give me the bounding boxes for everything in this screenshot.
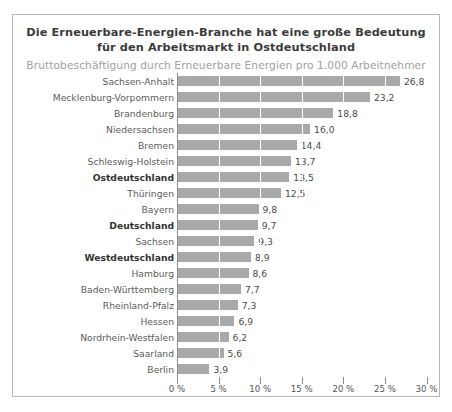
- bar: [177, 156, 291, 166]
- bar-row: Brandenburg18,8: [13, 105, 439, 121]
- bar-row: Bremen14,4: [13, 137, 439, 153]
- value-label: 7,3: [238, 300, 257, 311]
- bar-track: 7,3: [177, 297, 439, 313]
- axis-tick: [219, 377, 220, 384]
- bar: [177, 76, 400, 86]
- bar-row: Rheinland-Pfalz7,3: [13, 297, 439, 313]
- chart-subtitle: Bruttobeschäftigung durch Erneuerbare En…: [13, 58, 439, 73]
- value-label: 23,2: [370, 92, 394, 103]
- value-label: 8,6: [249, 268, 268, 279]
- bar: [177, 108, 333, 118]
- axis-tick-label: 5 %: [210, 384, 226, 394]
- axis-tick-label: 20 %: [332, 384, 354, 394]
- category-label: Niedersachsen: [106, 124, 174, 135]
- bar-track: 23,2: [177, 89, 439, 105]
- value-label: 3,9: [209, 364, 228, 375]
- value-label: 12,5: [281, 188, 305, 199]
- value-label: 9,7: [258, 220, 277, 231]
- bar-track: 14,4: [177, 137, 439, 153]
- value-label: 9,8: [259, 204, 278, 215]
- category-label: Rheinland-Pfalz: [103, 300, 174, 311]
- bar-track: 8,9: [177, 249, 439, 265]
- bar: [177, 236, 254, 246]
- bar-track: 8,6: [177, 265, 439, 281]
- axis-tick-label: 15 %: [291, 384, 313, 394]
- value-label: 8,9: [251, 252, 270, 263]
- bar: [177, 188, 281, 198]
- category-label: Berlin: [147, 364, 174, 375]
- bar-track: 13,7: [177, 153, 439, 169]
- bar-row: Deutschland9,7: [13, 217, 439, 233]
- bar-track: 12,5: [177, 185, 439, 201]
- bar-track: 6,2: [177, 329, 439, 345]
- x-axis-labels: 0 %5 %10 %15 %20 %25 %30 %: [177, 384, 439, 398]
- value-label: 16,0: [310, 124, 334, 135]
- value-label: 26,8: [400, 76, 424, 87]
- bar-row: Hamburg8,6: [13, 265, 439, 281]
- bar-track: 9,8: [177, 201, 439, 217]
- bar-track: 6,9: [177, 313, 439, 329]
- axis-tick: [260, 377, 261, 384]
- chart-title-line-2: für den Arbeitsmarkt in Ostdeutschland: [13, 40, 439, 55]
- bar-track: 3,9: [177, 361, 439, 377]
- bar-row: Saarland5,6: [13, 345, 439, 361]
- bar: [177, 204, 259, 214]
- bar: [177, 268, 249, 278]
- category-label: Schleswig-Holstein: [88, 156, 174, 167]
- bar-track: 26,8: [177, 73, 439, 89]
- axis-tick: [427, 377, 428, 384]
- axis-tick-label: 10 %: [249, 384, 271, 394]
- bar-row: Ostdeutschland13,5: [13, 169, 439, 185]
- category-label: Brandenburg: [114, 108, 174, 119]
- bar: [177, 332, 229, 342]
- value-label: 18,8: [333, 108, 357, 119]
- axis-tick: [177, 377, 178, 384]
- bar-row: Baden-Württemberg7,7: [13, 281, 439, 297]
- bar-track: 7,7: [177, 281, 439, 297]
- category-label: Ostdeutschland: [93, 172, 174, 183]
- axis-tick: [343, 377, 344, 384]
- bar: [177, 300, 238, 310]
- bar: [177, 348, 224, 358]
- bar-track: 9,7: [177, 217, 439, 233]
- value-label: 9,3: [254, 236, 273, 247]
- bar-track: 13,5: [177, 169, 439, 185]
- category-label: Hessen: [140, 316, 174, 327]
- bar-track: 5,6: [177, 345, 439, 361]
- chart-frame: Die Erneuerbare-Energien-Branche hat ein…: [12, 14, 440, 397]
- bar: [177, 316, 234, 326]
- bar-rows: Sachsen-Anhalt26,8Mecklenburg-Vorpommern…: [13, 73, 439, 377]
- bar: [177, 172, 289, 182]
- axis-tick-label: 30 %: [416, 384, 438, 394]
- bar-track: 16,0: [177, 121, 439, 137]
- bar-row: Sachsen9,3: [13, 233, 439, 249]
- value-label: 6,9: [234, 316, 253, 327]
- category-label: Bayern: [142, 204, 174, 215]
- bar-row: Nordrhein-Westfalen6,2: [13, 329, 439, 345]
- category-label: Hamburg: [131, 268, 174, 279]
- bar-track: 9,3: [177, 233, 439, 249]
- title-block: Die Erneuerbare-Energien-Branche hat ein…: [13, 15, 439, 73]
- value-label: 6,2: [229, 332, 248, 343]
- bar-row: Westdeutschland8,9: [13, 249, 439, 265]
- bar-row: Niedersachsen16,0: [13, 121, 439, 137]
- category-label: Bremen: [138, 140, 174, 151]
- category-label: Sachsen: [135, 236, 174, 247]
- category-label: Thüringen: [127, 188, 174, 199]
- plot-area: Sachsen-Anhalt26,8Mecklenburg-Vorpommern…: [13, 73, 439, 397]
- value-label: 14,4: [297, 140, 321, 151]
- category-label: Deutschland: [109, 220, 174, 231]
- value-label: 7,7: [241, 284, 260, 295]
- category-label: Saarland: [133, 348, 174, 359]
- category-label: Baden-Württemberg: [81, 284, 174, 295]
- bar: [177, 92, 370, 102]
- bar-row: Thüringen12,5: [13, 185, 439, 201]
- value-label: 5,6: [224, 348, 243, 359]
- bar-row: Mecklenburg-Vorpommern23,2: [13, 89, 439, 105]
- bar-row: Hessen6,9: [13, 313, 439, 329]
- bar: [177, 284, 241, 294]
- bar: [177, 124, 310, 134]
- bar-row: Sachsen-Anhalt26,8: [13, 73, 439, 89]
- category-label: Mecklenburg-Vorpommern: [53, 92, 174, 103]
- bar-row: Schleswig-Holstein13,7: [13, 153, 439, 169]
